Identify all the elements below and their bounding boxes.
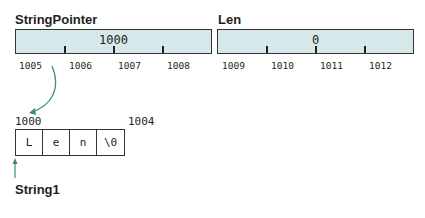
pointer-arrows [0, 0, 425, 218]
char-cell: e [43, 130, 70, 155]
string1-label: String1 [15, 182, 60, 197]
char-cell: L [16, 130, 43, 155]
string-array: L e n \0 [15, 129, 125, 156]
char-cell: n [70, 130, 97, 155]
start-address: 1000 [15, 115, 42, 128]
end-address: 1004 [128, 115, 155, 128]
char-cell: \0 [97, 130, 124, 155]
